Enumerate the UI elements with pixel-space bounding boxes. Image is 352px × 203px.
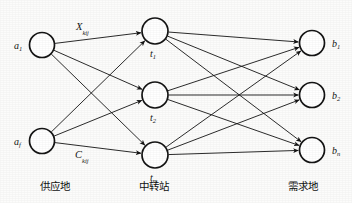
node-label-subscript: 1 — [19, 45, 22, 52]
node-af[interactable] — [30, 129, 55, 154]
node-b1[interactable] — [300, 31, 325, 56]
column-caption-transit: 中转站 — [139, 181, 170, 192]
node-b2[interactable] — [300, 83, 325, 108]
node-t2[interactable] — [142, 82, 168, 108]
edge-label-c-kij: Ckij — [75, 150, 89, 163]
edge-label-x-kij: Xkij — [76, 22, 89, 35]
node-label-t2: t2 — [150, 113, 156, 123]
node-label-bn: bn — [332, 146, 340, 156]
edge-tm-to-bn — [169, 150, 299, 154]
node-label-subscript: n — [337, 150, 340, 157]
node-label-b1: b1 — [332, 39, 340, 49]
edge-t1-to-b1 — [169, 32, 299, 42]
edge-layer — [51, 32, 301, 155]
node-a1[interactable] — [30, 33, 55, 58]
edge-af-to-t2 — [54, 100, 142, 136]
column-caption-demand: 需求地 — [288, 181, 319, 192]
node-label-af: af — [14, 137, 21, 147]
node-label-subscript: 2 — [337, 95, 340, 102]
edge-af-to-tm — [55, 143, 141, 154]
node-label-subscript: f — [19, 141, 21, 148]
edge-label-subscript: kij — [82, 29, 89, 36]
network-graph-canvas — [0, 0, 352, 203]
node-t1[interactable] — [142, 18, 168, 44]
node-label-subscript: 1 — [153, 53, 156, 60]
node-label-subscript: 2 — [153, 117, 156, 124]
edge-t2-to-bn — [168, 99, 299, 145]
column-caption-supply: 供应地 — [40, 181, 71, 192]
edge-label-subscript: kij — [82, 157, 89, 164]
node-label-t1: t1 — [150, 49, 156, 59]
edge-t2-to-b1 — [168, 47, 299, 90]
network-diagram: a1af供应地t1t2tm中转站b1b2bn需求地XkijCkij — [0, 0, 352, 203]
node-tm[interactable] — [142, 142, 168, 168]
edge-t1-to-b2 — [168, 36, 300, 90]
edge-a1-to-t1 — [55, 33, 141, 44]
edge-tm-to-b1 — [166, 51, 301, 147]
edge-label-base: C — [75, 149, 82, 160]
node-label-subscript: 1 — [337, 43, 340, 50]
node-bn[interactable] — [300, 138, 325, 163]
node-label-a1: a1 — [14, 41, 22, 51]
node-label-b2: b2 — [332, 91, 340, 101]
edge-t1-to-bn — [166, 39, 301, 142]
